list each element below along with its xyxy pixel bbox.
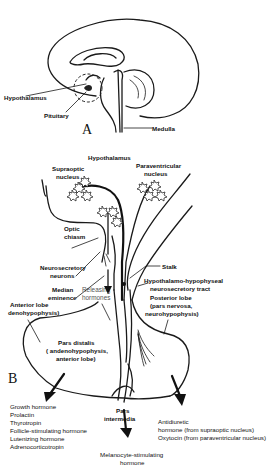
label-distalis-3: anterior lobe) [56, 355, 96, 362]
label-supraoptic-2: nucleus [56, 173, 80, 180]
label-intermedia-2: intermedia [104, 415, 136, 422]
anterior-hormones-list: Growth hormone Prolactin Thyrotropin Fol… [10, 403, 88, 450]
label-tract-2: neurosecretory tract [150, 285, 210, 292]
label-hypothalamus-b: Hypothalamus [88, 154, 131, 161]
label-optic-2: chiasm [64, 233, 86, 240]
label-optic-1: Optic [64, 225, 80, 232]
label-anterior-1: Anterior lobe [10, 301, 49, 308]
label-hypothalamus-a: Hypothalamus [4, 94, 47, 101]
hormone-item: Antidiuretic [158, 418, 189, 425]
hormone-item: Oxytocin (from paraventricular nucleus) [158, 434, 266, 441]
label-median-2: eminence [48, 294, 77, 301]
label-neurosecretory-2: neurons [50, 272, 75, 279]
label-posterior-2: (pars nervosa, [150, 302, 193, 309]
label-posterior-1: Posterior lobe [150, 294, 192, 301]
label-supraoptic-1: Supraoptic [52, 165, 85, 172]
label-tract-1: Hypothalamo-hypophyseal [144, 277, 223, 284]
label-paraventricular-2: nucleus [144, 170, 168, 177]
label-stalk: Stalk [162, 263, 177, 270]
hormone-item: Thyrotropin [10, 419, 42, 426]
hormone-item: Lutenizing hormone [10, 435, 65, 442]
label-distalis-1: Pars distalis [58, 339, 95, 346]
msh-label-1: Melanocyte-stimulating [100, 451, 164, 458]
hormone-item: Prolactin [10, 411, 35, 418]
label-pituitary: Pituitary [44, 112, 69, 119]
neuron-cell-bodies [67, 176, 167, 227]
hormone-item: Follicle-stimulating hormone [10, 427, 88, 434]
msh-label-2: hormone [120, 459, 145, 466]
label-distalis-2: ( andenohypophysis, [46, 347, 108, 354]
pituitary-diagram: Hypothalamus Pituitary Medulla A Hypotha… [0, 0, 276, 473]
panel-letter-b: B [8, 371, 17, 386]
hormone-item: Growth hormone [10, 403, 57, 410]
posterior-hormones-list: Antidiuretic hormone (from supraoptic nu… [158, 418, 266, 441]
label-medulla: Medulla [152, 125, 176, 132]
hormone-item: Adrenocorticotropin [10, 443, 64, 450]
panel-letter-a: A [82, 122, 93, 137]
label-neurosecretory-1: Neurosecretory [40, 264, 86, 271]
label-releasing-2: hormones [82, 294, 110, 301]
label-median-1: Median [52, 286, 74, 293]
label-anterior-2: denohypophysis) [8, 309, 59, 316]
label-intermedia-1: Pars [116, 407, 130, 414]
hormone-item: hormone (from supraoptic nucleus) [158, 426, 254, 433]
label-posterior-3: neurohypophysis) [145, 310, 199, 317]
label-paraventricular-1: Paraventricular [136, 162, 182, 169]
